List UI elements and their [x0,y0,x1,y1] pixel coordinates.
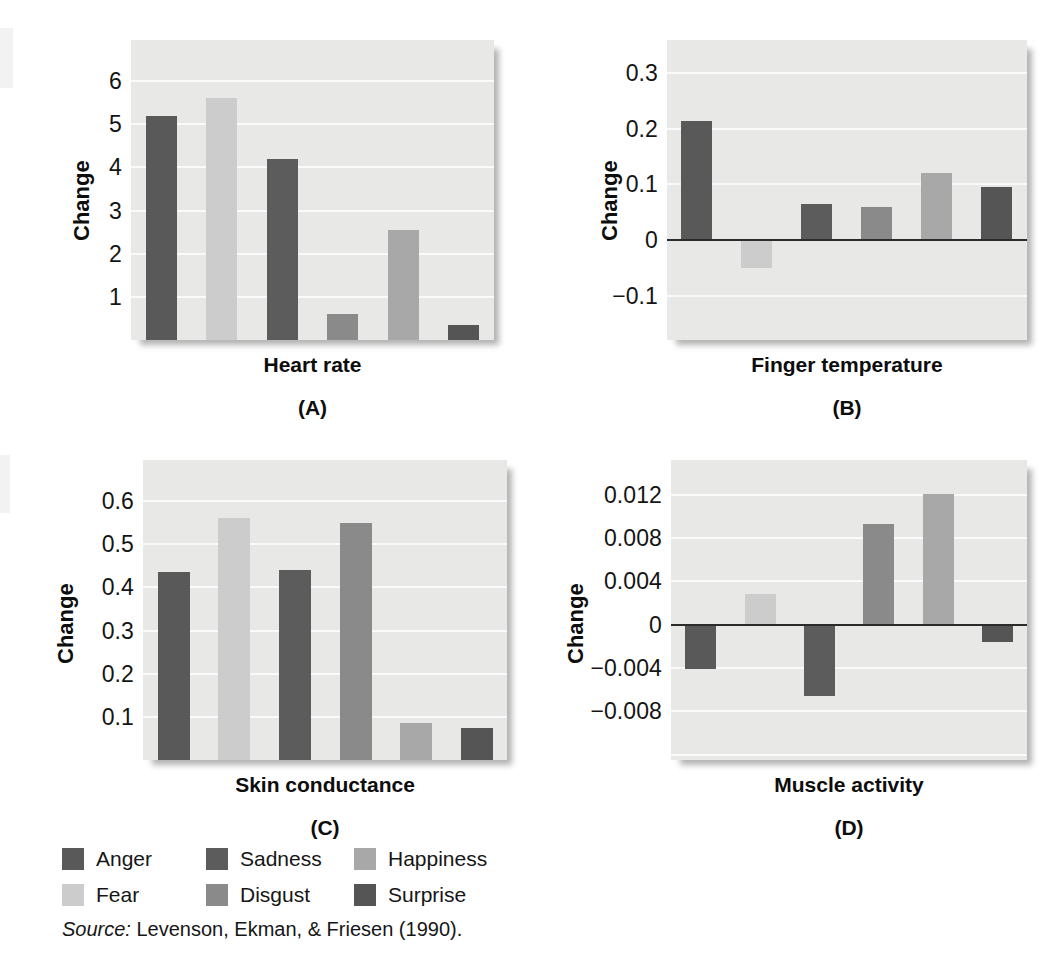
bar-sadness [801,204,832,240]
legend-label: Fear [96,883,139,907]
source-note: Source: Levenson, Ekman, & Friesen (1990… [62,918,462,941]
zero-baseline [667,239,1027,241]
bar-happiness [400,723,432,760]
legend-row: FearDisgustSurprise [62,877,492,913]
panel-c-x-axis-title: Skin conductance [143,773,507,797]
legend-item-anger: Anger [62,847,206,871]
panel-b-x-axis-title: Finger temperature [667,353,1027,377]
panel-a-plot-area [131,40,494,340]
panel-b-finger-temperature: Change −0.100.10.20.3 Finger temperature… [524,28,1049,393]
bar-surprise [981,187,1012,240]
source-prefix: Source: [62,918,131,940]
legend-item-disgust: Disgust [206,883,354,907]
y-tick-label: 0.1 [102,703,134,730]
bar-fear [745,594,776,624]
y-tick-label: 4 [109,154,122,181]
panel-d-letter: (D) [671,816,1027,840]
panel-c-bars [143,460,507,760]
y-tick-label: 0.004 [604,568,662,595]
panel-a-y-ticks: 123456 [60,40,122,340]
panel-a-letter: (A) [131,396,494,420]
y-tick-label: −0.008 [590,698,662,725]
legend-swatch-icon [206,884,228,906]
panel-b-plot-area [667,40,1027,340]
bar-anger [685,625,716,669]
legend-swatch-icon [354,848,376,870]
bar-anger [681,121,712,240]
y-tick-label: 0.3 [102,617,134,644]
panel-b-letter: (B) [667,396,1027,420]
legend-row: AngerSadnessHappiness [62,841,492,877]
y-tick-label: 3 [109,197,122,224]
source-citation: Levenson, Ekman, & Friesen (1990). [137,918,463,940]
legend-label: Anger [96,847,152,871]
bar-surprise [461,728,493,760]
y-tick-label: −0.1 [612,282,658,309]
bar-fear [206,98,237,340]
bar-surprise [982,625,1013,642]
y-tick-label: 2 [109,240,122,267]
y-tick-label: 0.1 [626,171,658,198]
panel-d-plot-area [671,460,1027,760]
panel-d-bars [671,460,1027,760]
panel-b-bars [667,40,1027,340]
panel-d-y-ticks: −0.008−0.00400.0040.0080.012 [544,460,662,760]
legend-swatch-icon [354,884,376,906]
legend-swatch-icon [62,884,84,906]
y-tick-label: 0.008 [604,524,662,551]
bar-happiness [388,230,419,340]
legend-item-fear: Fear [62,883,206,907]
bar-sadness [804,625,835,696]
y-tick-label: −0.004 [590,654,662,681]
legend-label: Happiness [388,847,487,871]
y-tick-label: 0.012 [604,481,662,508]
y-tick-label: 5 [109,111,122,138]
legend-label: Disgust [240,883,310,907]
bar-anger [158,572,190,760]
y-tick-label: 0 [649,611,662,638]
legend-item-sadness: Sadness [206,847,354,871]
legend-label: Sadness [240,847,322,871]
panel-d-x-axis-title: Muscle activity [671,773,1027,797]
emotion-physiology-figure: Change 123456 Heart rate (A) Change −0.1… [0,0,1049,970]
bar-sadness [267,159,298,340]
panel-a-heart-rate: Change 123456 Heart rate (A) [0,28,524,393]
legend-label: Surprise [388,883,466,907]
y-tick-label: 0.4 [102,574,134,601]
bar-anger [146,116,177,340]
y-tick-label: 0.5 [102,531,134,558]
legend-item-happiness: Happiness [354,847,487,871]
legend-swatch-icon [206,848,228,870]
legend: AngerSadnessHappinessFearDisgustSurprise [62,841,492,913]
panel-d-muscle-activity: Change −0.008−0.00400.0040.0080.012 Musc… [524,448,1049,813]
panel-c-plot-area [143,460,507,760]
panel-a-bars [131,40,494,340]
bar-fear [741,240,772,268]
panel-a-x-axis-title: Heart rate [131,353,494,377]
bar-happiness [921,173,952,240]
y-tick-label: 0.6 [102,488,134,515]
panel-b-y-ticks: −0.100.10.20.3 [588,40,658,340]
bar-fear [218,518,250,760]
panel-c-y-ticks: 0.10.20.30.40.50.6 [38,460,134,760]
bar-disgust [863,524,894,625]
bar-surprise [448,325,479,340]
y-tick-label: 6 [109,68,122,95]
bar-sadness [279,570,311,760]
zero-baseline [671,624,1027,626]
y-tick-label: 1 [109,283,122,310]
y-tick-label: 0.2 [102,660,134,687]
bar-disgust [340,523,372,760]
bar-disgust [861,207,892,240]
bar-happiness [923,494,954,625]
y-tick-label: 0.2 [626,115,658,142]
y-tick-label: 0.3 [626,60,658,87]
bar-disgust [327,314,358,340]
legend-item-surprise: Surprise [354,883,466,907]
legend-swatch-icon [62,848,84,870]
panel-c-letter: (C) [143,816,507,840]
panel-c-skin-conductance: Change 0.10.20.30.40.50.6 Skin conductan… [0,448,524,813]
y-tick-label: 0 [645,227,658,254]
